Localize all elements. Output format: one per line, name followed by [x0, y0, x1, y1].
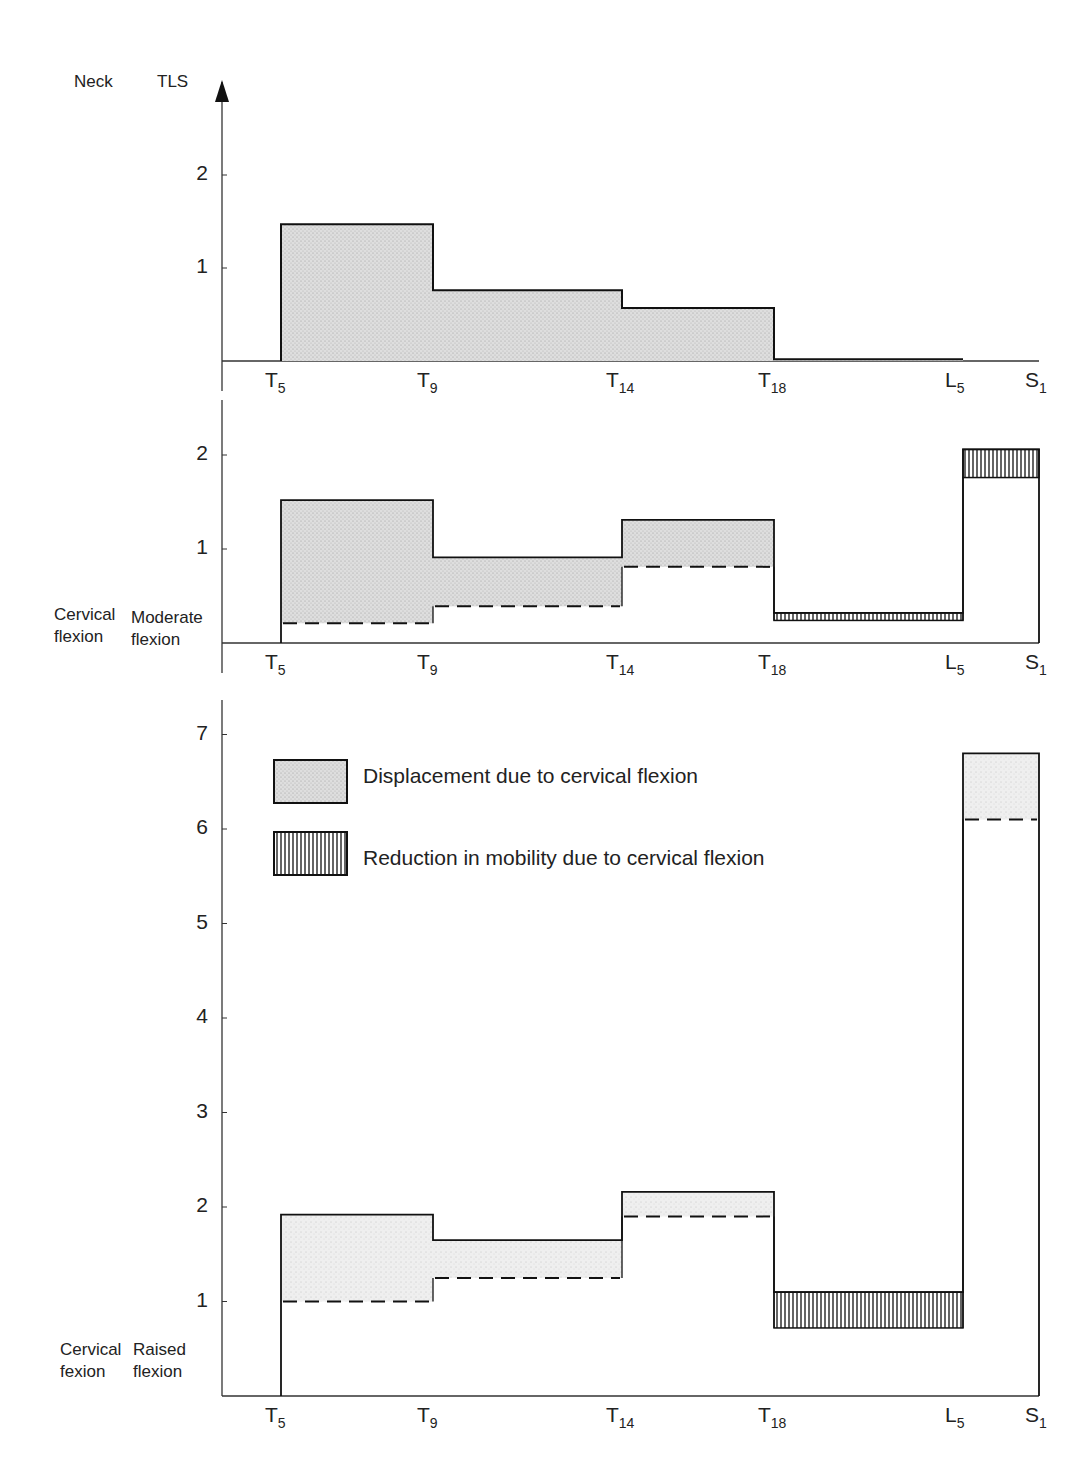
displacement-segment [433, 1240, 622, 1278]
reduction-segment [963, 449, 1039, 477]
x-tick-label: S1 [1025, 368, 1047, 396]
y-axis-arrow-icon [215, 80, 229, 102]
y-tick-label: 2 [178, 1193, 208, 1217]
neck-label: Neck [74, 72, 113, 92]
cervical-flexion-label-line1: Cervical [54, 605, 115, 625]
y-tick-label: 6 [178, 815, 208, 839]
cervical-fexion-label-line2: fexion [60, 1362, 105, 1382]
reduction-segment [774, 613, 963, 621]
reduction-segment [774, 1292, 963, 1328]
x-tick-label: T9 [417, 1403, 438, 1431]
x-tick-label: T18 [758, 1403, 786, 1431]
moderate-flexion-label-line2: flexion [131, 630, 180, 650]
displacement-segment [622, 520, 774, 567]
y-tick-label: 7 [178, 721, 208, 745]
displacement-segment [622, 1192, 774, 1217]
x-tick-label: T14 [606, 368, 634, 396]
panel-bottom [222, 700, 1039, 1396]
y-tick-label: 2 [178, 161, 208, 185]
x-tick-label: S1 [1025, 1403, 1047, 1431]
cervical-fexion-label-line1: Cervical [60, 1340, 121, 1360]
y-tick-label: 1 [178, 535, 208, 559]
displacement-segment [281, 1215, 433, 1302]
x-tick-label: T5 [265, 1403, 286, 1431]
y-tick-label: 4 [178, 1004, 208, 1028]
x-tick-label: L5 [945, 1403, 964, 1431]
x-tick-label: T18 [758, 368, 786, 396]
displacement-segment [281, 500, 433, 623]
cervical-flexion-label-line2: flexion [54, 627, 103, 647]
y-tick-label: 2 [178, 441, 208, 465]
panel-middle [222, 400, 1039, 673]
x-tick-label: L5 [945, 368, 964, 396]
displacement-segment [433, 557, 622, 606]
x-tick-label: T14 [606, 1403, 634, 1431]
y-tick-label: 5 [178, 910, 208, 934]
x-tick-label: T18 [758, 650, 786, 678]
spinal-mobility-chart [0, 0, 1088, 1483]
x-tick-label: T5 [265, 650, 286, 678]
legend-reduction-swatch [274, 832, 347, 875]
y-tick-label: 3 [178, 1099, 208, 1123]
y-tick-label: 1 [178, 254, 208, 278]
legend [274, 760, 347, 875]
y-tick-label: 1 [178, 1288, 208, 1312]
displacement-segment [963, 753, 1039, 819]
x-tick-label: T14 [606, 650, 634, 678]
x-tick-label: S1 [1025, 650, 1047, 678]
moderate-flexion-label-line1: Moderate [131, 608, 203, 628]
legend-reduction-label: Reduction in mobility due to cervical fl… [363, 846, 765, 870]
x-tick-label: L5 [945, 650, 964, 678]
panel-top [215, 80, 1039, 391]
x-tick-label: T5 [265, 368, 286, 396]
x-tick-label: T9 [417, 650, 438, 678]
legend-displacement-label: Displacement due to cervical flexion [363, 764, 698, 788]
raised-flexion-label-line1: Raised [133, 1340, 186, 1360]
tls-label: TLS [157, 72, 188, 92]
x-tick-label: T9 [417, 368, 438, 396]
raised-flexion-label-line2: flexion [133, 1362, 182, 1382]
legend-displacement-swatch [274, 760, 347, 803]
